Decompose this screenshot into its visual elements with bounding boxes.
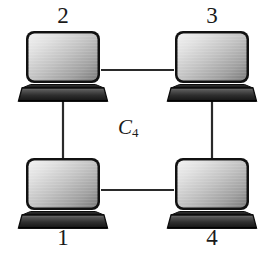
node-label-3: 3 (192, 4, 232, 27)
node-label-2: 2 (43, 4, 83, 27)
network-diagram-figure: 2 3 1 4 C4 C4 cycle network of four lapt… (0, 0, 274, 259)
graph-name-letter: C (118, 115, 132, 139)
node-label-4: 4 (192, 226, 232, 249)
laptop-node-4[interactable] (168, 158, 257, 228)
laptop-node-3[interactable] (168, 31, 257, 101)
graph-name-label: C4 (118, 117, 139, 139)
laptop-node-2[interactable] (19, 31, 108, 101)
node-label-1: 1 (43, 226, 83, 249)
laptop-node-1[interactable] (19, 158, 108, 228)
graph-name-subscript: 4 (132, 125, 139, 140)
